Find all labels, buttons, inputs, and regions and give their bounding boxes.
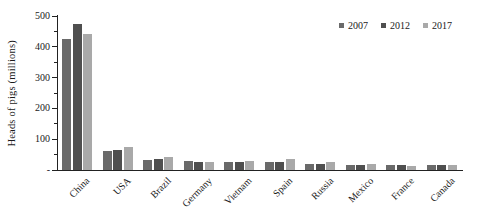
y-axis-title-wrap: Heads of pigs (millions) (6, 0, 17, 186)
bar-france-2012 (397, 165, 406, 170)
y-axis-line (57, 15, 58, 171)
pig-heads-bar-chart: Heads of pigs (millions) -10020030040050… (0, 0, 482, 217)
x-tick-label-brazil: Brazil (148, 175, 173, 200)
y-tick-label: 400 (20, 41, 50, 53)
legend-label: 2012 (390, 20, 410, 31)
x-tick-label-germany: Germany (179, 175, 213, 209)
bar-spain-2012 (275, 162, 284, 170)
bar-germany-2012 (194, 162, 203, 170)
bar-brazil-2017 (164, 157, 173, 170)
x-tick-label-mexico: Mexico (346, 175, 375, 204)
legend-item-2017: 2017 (423, 20, 452, 31)
bar-china-2012 (73, 24, 82, 170)
bar-canada-2017 (448, 165, 457, 170)
bar-usa-2007 (103, 151, 112, 170)
legend-label: 2007 (348, 20, 368, 31)
bar-germany-2017 (205, 162, 214, 170)
legend-label: 2017 (432, 20, 452, 31)
y-tick-label: 200 (20, 102, 50, 114)
bar-usa-2017 (124, 147, 133, 170)
bar-canada-2007 (427, 165, 436, 170)
y-tick-label: - (20, 164, 50, 176)
x-tick-label-china: China (67, 175, 92, 200)
bar-usa-2012 (113, 150, 122, 170)
bar-spain-2007 (265, 162, 274, 170)
bar-mexico-2007 (346, 165, 355, 170)
x-tick-label-vietnam: Vietnam (222, 175, 254, 207)
bar-france-2017 (407, 166, 416, 170)
legend-item-2007: 2007 (339, 20, 368, 31)
bar-vietnam-2017 (245, 161, 254, 170)
legend: 200720122017 (339, 20, 452, 31)
bar-spain-2017 (286, 159, 295, 170)
x-tick-label-canada: Canada (428, 175, 457, 204)
bar-russia-2007 (305, 164, 314, 170)
x-tick-label-usa: USA (111, 175, 133, 197)
bar-russia-2012 (316, 164, 325, 170)
bar-china-2007 (62, 39, 71, 170)
bar-brazil-2012 (154, 159, 163, 170)
legend-swatch-icon (381, 23, 386, 28)
bar-china-2017 (83, 34, 92, 170)
legend-swatch-icon (339, 23, 344, 28)
bar-brazil-2007 (143, 160, 152, 170)
bar-germany-2007 (184, 161, 193, 170)
bar-mexico-2017 (367, 164, 376, 170)
y-axis-title: Heads of pigs (millions) (6, 40, 17, 147)
x-tick-label-france: France (389, 175, 416, 202)
y-tick-label: 100 (20, 133, 50, 145)
bar-france-2007 (386, 165, 395, 170)
bar-russia-2017 (326, 162, 335, 170)
x-axis-line (57, 170, 463, 171)
bar-canada-2012 (437, 165, 446, 170)
y-tick-label: 500 (20, 10, 50, 22)
bar-mexico-2012 (356, 165, 365, 170)
legend-swatch-icon (423, 23, 428, 28)
y-tick-label: 300 (20, 72, 50, 84)
bar-vietnam-2012 (235, 162, 244, 170)
x-tick-label-spain: Spain (271, 175, 295, 199)
x-tick-label-russia: Russia (308, 175, 335, 202)
bar-vietnam-2007 (224, 162, 233, 170)
legend-item-2012: 2012 (381, 20, 410, 31)
